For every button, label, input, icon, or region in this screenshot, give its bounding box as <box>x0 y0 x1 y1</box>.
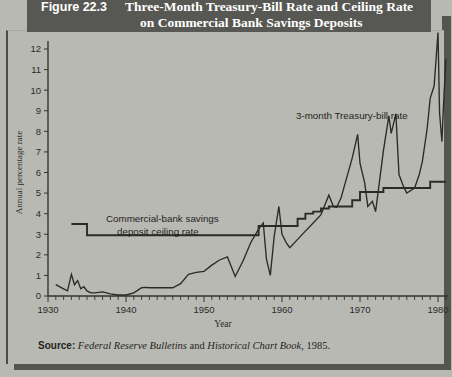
figure-title-banner: Figure 22.3 Three-Month Treasury-Bill Ra… <box>27 0 431 32</box>
source-note: Source: Federal Reserve Bulletins and Hi… <box>38 340 330 351</box>
figure-number-label: Figure 22.3 <box>41 0 107 14</box>
figure-title-line-2: on Commercial Bank Savings Deposits <box>140 15 363 31</box>
source-conjunction: and <box>187 340 207 351</box>
figure-panel <box>6 30 444 364</box>
source-italic-1: Federal Reserve Bulletins <box>78 340 187 351</box>
source-tail: , 1985. <box>301 340 330 351</box>
figure-container: Figure 22.3 Three-Month Treasury-Bill Ra… <box>0 0 452 377</box>
figure-title-line-1: Three-Month Treasury-Bill Rate and Ceili… <box>125 0 413 15</box>
source-label: Source: <box>38 340 75 351</box>
source-italic-2: Historical Chart Book <box>207 340 301 351</box>
